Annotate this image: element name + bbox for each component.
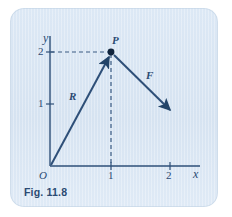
figure-caption: Fig. 11.8 (24, 186, 67, 198)
point-P-label: P (112, 35, 119, 46)
figure-container: y x 2 1 1 2 O P R F Fig. 11.8 (0, 0, 232, 217)
x-axis-tick-label-1: 1 (108, 170, 114, 181)
vector-F (114, 55, 170, 110)
point-P-dot (108, 49, 115, 56)
origin-label: O (39, 170, 47, 181)
vector-R (51, 57, 109, 165)
x-axis-label: x (193, 168, 198, 180)
y-axis-tick-label-1: 1 (38, 98, 44, 109)
vector-R-label: R (69, 91, 76, 102)
coordinate-plot (0, 0, 232, 217)
y-axis-label: y (43, 32, 48, 44)
vector-F-label: F (146, 70, 153, 81)
y-axis-tick-label-2: 2 (38, 46, 44, 57)
x-axis-tick-label-2: 2 (166, 170, 172, 181)
